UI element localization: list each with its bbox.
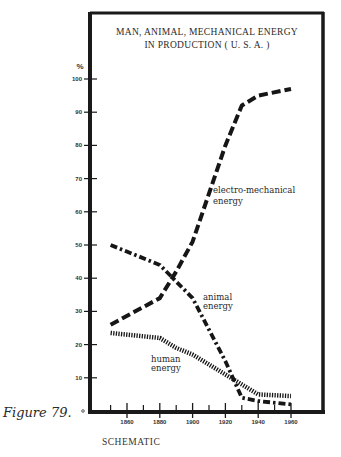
x-tick-label: 1880 [153, 419, 167, 425]
y-tick-label: 50 [75, 242, 82, 248]
svg-text:energy: energy [213, 196, 243, 206]
x-tick-label: 1900 [186, 419, 200, 425]
svg-text:electro-mechanical: electro-mechanical [213, 185, 295, 195]
x-tick-label: 1940 [252, 419, 266, 425]
series-line-dash-dot [111, 245, 291, 404]
chart-title-line-2: IN PRODUCTION ( U. S. A. ) [144, 40, 269, 51]
x-tick-label: 1920 [219, 419, 233, 425]
y-tick-label: 70 [75, 176, 82, 182]
series-line-dotted [111, 333, 291, 396]
energy-chart: MAN, ANIMAL, MECHANICAL ENERGY IN PRODUC… [0, 0, 341, 457]
label-electro-mechanical: electro-mechanical energy [213, 185, 295, 206]
label-human: human energy [151, 354, 181, 373]
y-tick-label: 30 [75, 308, 82, 314]
y-tick-label: 10 [75, 375, 82, 381]
x-tick-label: 1860 [120, 419, 134, 425]
y-tick-label: 90 [75, 109, 82, 115]
figure-caption: Figure 79. [3, 405, 72, 420]
y-axis-ticks: 102030405060708090100 [72, 76, 97, 412]
schematic-note: SCHEMATIC [102, 437, 160, 447]
y-tick-label: 100 [72, 76, 83, 82]
chart-series [111, 89, 291, 404]
y-axis-unit: % [76, 62, 83, 71]
chart-title-line-1: MAN, ANIMAL, MECHANICAL ENERGY [116, 27, 298, 37]
series-line-long-dash [111, 89, 291, 325]
chart-frame [88, 12, 325, 413]
y-tick-label: 80 [75, 142, 82, 148]
svg-text:energy: energy [151, 363, 181, 373]
x-tick-label: 1960 [284, 419, 298, 425]
svg-text:energy: energy [203, 301, 233, 311]
y-tick-label: 40 [75, 275, 82, 281]
label-animal: animal energy [203, 292, 233, 311]
y-tick-label: 60 [75, 209, 82, 215]
y-tick-label: 20 [75, 342, 82, 348]
